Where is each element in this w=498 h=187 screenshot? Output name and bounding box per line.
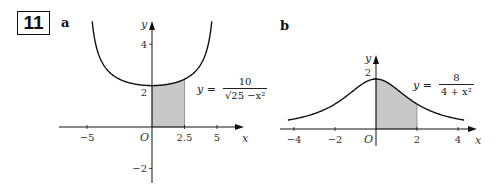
- y-tick-label: 2: [365, 67, 371, 78]
- y-tick-label: −2: [132, 163, 147, 174]
- x-tick-label: 4: [455, 134, 461, 145]
- x-tick-label: 5: [214, 132, 220, 143]
- x-axis-label: x: [242, 132, 249, 145]
- panel-b-y-arrow-icon: [373, 55, 379, 64]
- y-tick-label: 4: [141, 39, 147, 50]
- y-tick-label: 2: [141, 87, 147, 98]
- panel-b-chart: −4−2242xyO: [280, 52, 482, 147]
- panel-a-equation: y = 10 √25 −x²: [197, 76, 267, 102]
- y-axis-label: y: [140, 18, 148, 31]
- panel-a-equation-lhs: y =: [197, 83, 216, 96]
- panel-b-equation-numerator: 8: [451, 72, 461, 84]
- x-axis-label: x: [475, 134, 482, 147]
- x-tick-label: 2.5: [177, 132, 193, 143]
- panel-b-equation-denominator: 4 + x²: [439, 84, 474, 98]
- panel-b-shaded-area: [376, 79, 417, 129]
- panel-a-equation-numerator: 10: [237, 76, 254, 88]
- panel-a-equation-fraction: 10 √25 −x²: [223, 76, 267, 102]
- panel-a-y-arrow-icon: [149, 21, 155, 30]
- origin-label: O: [364, 133, 373, 146]
- x-tick-label: −5: [80, 132, 95, 143]
- x-tick-label: −2: [328, 134, 343, 145]
- x-tick-label: 2: [414, 134, 420, 145]
- x-tick-label: −4: [287, 134, 302, 145]
- panel-a-x-arrow-icon: [235, 124, 244, 130]
- panel-a-equation-denominator: √25 −x²: [223, 88, 267, 102]
- panel-a-shaded-area: [152, 79, 185, 127]
- panel-b-x-arrow-icon: [468, 126, 477, 132]
- panel-b-equation-lhs: y =: [413, 79, 432, 92]
- y-axis-label: y: [364, 52, 372, 65]
- panel-b-equation-fraction: 8 4 + x²: [439, 72, 474, 98]
- panel-b-equation: y = 8 4 + x²: [413, 72, 474, 98]
- origin-label: O: [140, 131, 149, 144]
